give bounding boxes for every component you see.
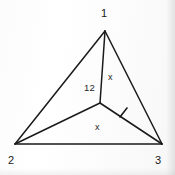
vertex-label-2: 2 [8,155,14,166]
edge-vertex1-vertex3 [105,31,162,144]
segment-center-vertex3 [100,103,162,144]
tick-mark-icon [120,108,127,117]
segment-label-x-upper: x [108,73,113,82]
segment-center-vertex2 [15,103,100,144]
segment-label-x-lower: x [95,123,100,132]
vertex-label-1: 1 [101,8,107,19]
vertex-label-3: 3 [155,155,161,166]
center-number-label: 12 [84,83,95,93]
segment-center-vertex1 [100,31,105,103]
geometry-figure: 1 2 3 12 x x [0,0,175,175]
